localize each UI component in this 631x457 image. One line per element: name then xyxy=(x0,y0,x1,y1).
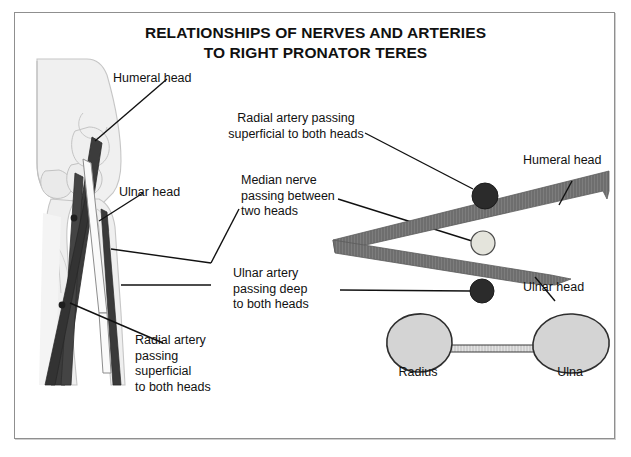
label-median-nerve-center: Median nerve passing between two heads xyxy=(241,173,335,220)
radial-artery-circle xyxy=(472,183,498,209)
label-radius: Radius xyxy=(372,365,464,381)
label-ulnar-head-right: Ulnar head xyxy=(523,280,584,296)
median-nerve-circle xyxy=(471,231,495,255)
label-humeral-head-left: Humeral head xyxy=(113,71,192,87)
interosseous-membrane xyxy=(447,345,537,352)
figure-frame: RELATIONSHIPS OF NERVES AND ARTERIES TO … xyxy=(14,12,615,439)
figure-root: RELATIONSHIPS OF NERVES AND ARTERIES TO … xyxy=(0,0,631,457)
leader-ulnar-artery-center xyxy=(340,290,470,291)
radial-artery-marker-left xyxy=(59,302,66,309)
ulnar-artery-marker-left xyxy=(71,215,78,222)
leader-median-nerve-to-left xyxy=(211,209,239,263)
label-humeral-head-right: Humeral head xyxy=(523,153,602,169)
ulnar-artery-circle xyxy=(470,279,494,303)
label-radial-artery-center: Radial artery passing superficial to bot… xyxy=(211,111,381,142)
label-ulnar-artery-center: Ulnar artery passing deep to both heads xyxy=(233,266,309,313)
right-crosssection xyxy=(333,171,609,373)
label-radial-artery-left: Radial artery passing superficial to bot… xyxy=(135,333,211,395)
radius-bone xyxy=(387,314,452,372)
label-ulna: Ulna xyxy=(524,365,616,381)
leader-radial-artery-center xyxy=(365,133,473,189)
label-ulnar-head-left: Ulnar head xyxy=(119,185,180,201)
leader-ulnar-artery-to-arm xyxy=(111,249,211,263)
